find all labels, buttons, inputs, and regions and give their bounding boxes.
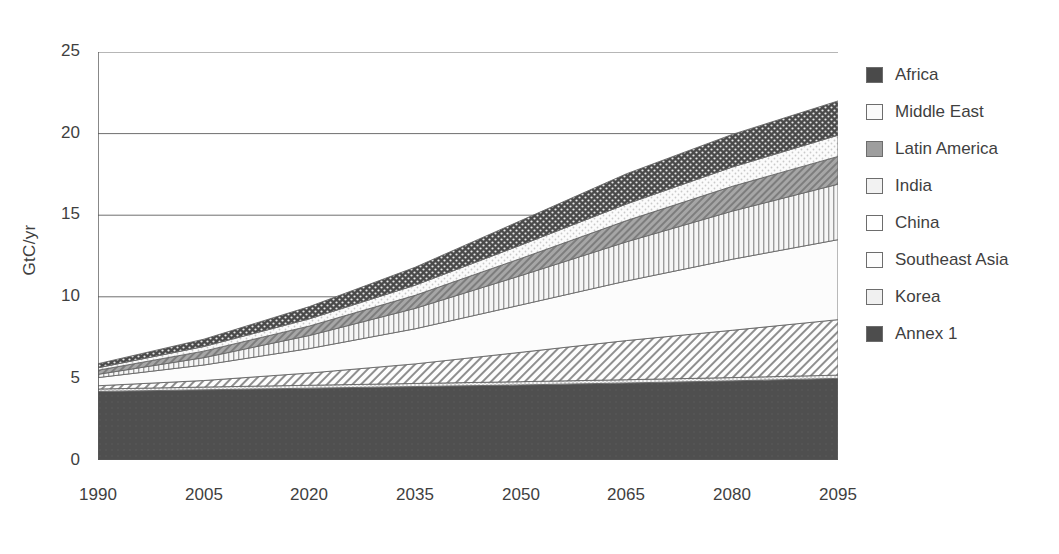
y-tick-label-20: 20 — [40, 123, 80, 143]
legend-item-africa[interactable]: Africa — [866, 56, 1056, 93]
x-tick-label-2050: 2050 — [486, 485, 556, 505]
legend-item-india[interactable]: India — [866, 167, 1056, 204]
chart-figure: GtC/yr 25 20 15 10 5 0 1990 2005 2020 20… — [0, 0, 1059, 554]
x-tick-label-1990: 1990 — [63, 485, 133, 505]
stipple-light-swatch-icon — [866, 289, 883, 305]
x-tick-label-2095: 2095 — [803, 485, 873, 505]
legend-label: Korea — [895, 287, 940, 307]
diagonal-gray-swatch-icon — [866, 141, 883, 157]
x-tick-label-2020: 2020 — [274, 485, 344, 505]
plain-white-swatch-icon — [866, 215, 883, 231]
legend-label: Southeast Asia — [895, 250, 1008, 270]
legend-item-latin-america[interactable]: Latin America — [866, 130, 1056, 167]
y-axis-title: GtC/yr — [20, 190, 40, 310]
legend-item-middle-east[interactable]: Middle East — [866, 93, 1056, 130]
y-tick-label-10: 10 — [40, 286, 80, 306]
plot-area — [98, 52, 838, 460]
y-tick-label-15: 15 — [40, 204, 80, 224]
y-tick-label-5: 5 — [40, 368, 80, 388]
legend-item-annex-1[interactable]: Annex 1 — [866, 315, 1056, 352]
legend-label: Annex 1 — [895, 324, 957, 344]
legend-label: India — [895, 176, 932, 196]
stacked-area-plot — [98, 52, 838, 460]
x-tick-label-2065: 2065 — [591, 485, 661, 505]
legend-label: Middle East — [895, 102, 984, 122]
legend-label: China — [895, 213, 939, 233]
x-tick-label-2035: 2035 — [380, 485, 450, 505]
legend-label: Africa — [895, 65, 938, 85]
legend-item-southeast-asia[interactable]: Southeast Asia — [866, 241, 1056, 278]
y-tick-label-25: 25 — [40, 41, 80, 61]
area-band-annex-1 — [98, 378, 838, 460]
vertical-lines-swatch-icon — [866, 178, 883, 194]
x-tick-label-2005: 2005 — [169, 485, 239, 505]
area-bands — [98, 101, 838, 460]
solid-dark-swatch-icon — [866, 326, 883, 342]
y-tick-label-0: 0 — [40, 450, 80, 470]
diagonal-white-swatch-icon — [866, 252, 883, 268]
legend-item-korea[interactable]: Korea — [866, 278, 1056, 315]
legend-item-china[interactable]: China — [866, 204, 1056, 241]
x-tick-label-2080: 2080 — [697, 485, 767, 505]
legend-label: Latin America — [895, 139, 998, 159]
dotted-dark-swatch-icon — [866, 67, 883, 83]
dotted-light-swatch-icon — [866, 104, 883, 120]
legend: Africa Middle East Latin America India C… — [866, 56, 1056, 352]
